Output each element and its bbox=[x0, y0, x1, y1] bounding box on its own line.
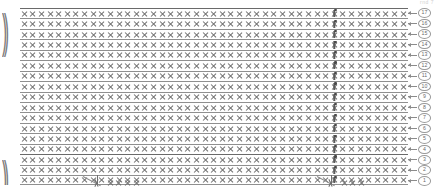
row-number-4[interactable]: 4 bbox=[408, 144, 431, 154]
single-crochet-x-icon bbox=[89, 19, 98, 28]
x-glyph bbox=[314, 115, 321, 122]
row-direction-arrow-icon bbox=[408, 65, 417, 66]
x-glyph bbox=[374, 125, 381, 132]
row-number-16[interactable]: 16 bbox=[408, 18, 431, 28]
dot-glyph bbox=[334, 20, 336, 22]
x-glyph bbox=[184, 31, 191, 38]
x-glyph bbox=[358, 179, 365, 186]
x-glyph bbox=[391, 21, 398, 28]
x-glyph bbox=[305, 104, 312, 111]
x-glyph bbox=[236, 42, 243, 49]
x-glyph bbox=[357, 73, 364, 80]
single-crochet-x-icon bbox=[364, 40, 373, 49]
stitch-row-cells bbox=[20, 134, 408, 143]
single-crochet-x-icon bbox=[356, 30, 365, 39]
x-glyph bbox=[184, 21, 191, 28]
row-number-10[interactable]: 10 bbox=[408, 81, 431, 91]
row-number-13[interactable]: 13 bbox=[408, 50, 431, 60]
x-glyph bbox=[339, 62, 346, 69]
x-glyph bbox=[296, 115, 303, 122]
single-crochet-x-icon bbox=[132, 40, 141, 49]
single-crochet-x-icon bbox=[390, 9, 399, 18]
x-glyph bbox=[72, 156, 79, 163]
x-glyph bbox=[236, 83, 243, 90]
row-number-8[interactable]: 8 bbox=[408, 102, 431, 112]
single-crochet-x-icon bbox=[296, 134, 305, 143]
x-glyph bbox=[184, 52, 191, 59]
x-glyph bbox=[150, 62, 157, 69]
dot-glyph bbox=[334, 145, 336, 147]
single-crochet-x-icon bbox=[106, 113, 115, 122]
x-glyph bbox=[391, 156, 398, 163]
single-crochet-x-icon bbox=[166, 40, 175, 49]
x-glyph bbox=[253, 31, 260, 38]
row-number-label: 11 bbox=[418, 71, 431, 81]
single-crochet-x-icon bbox=[115, 134, 124, 143]
single-crochet-x-icon bbox=[158, 113, 167, 122]
row-number-label: 5 bbox=[418, 134, 431, 144]
single-crochet-x-icon bbox=[390, 103, 399, 112]
single-crochet-x-icon bbox=[80, 30, 89, 39]
row-number-12[interactable]: 12 bbox=[408, 60, 431, 70]
x-glyph bbox=[219, 83, 226, 90]
single-crochet-x-icon bbox=[166, 82, 175, 91]
single-crochet-x-icon bbox=[201, 166, 210, 175]
single-crochet-x-icon bbox=[115, 82, 124, 91]
row-number-6[interactable]: 6 bbox=[408, 123, 431, 133]
single-crochet-x-icon bbox=[166, 155, 175, 164]
x-glyph bbox=[382, 73, 389, 80]
x-glyph bbox=[72, 104, 79, 111]
single-crochet-x-icon bbox=[339, 166, 348, 175]
single-crochet-x-icon bbox=[347, 134, 356, 143]
single-crochet-x-icon bbox=[252, 155, 261, 164]
x-glyph bbox=[98, 83, 105, 90]
single-crochet-x-icon bbox=[20, 61, 29, 70]
x-glyph bbox=[64, 156, 71, 163]
single-crochet-x-icon bbox=[37, 113, 46, 122]
single-crochet-x-icon bbox=[313, 124, 322, 133]
row-number-3[interactable]: 3 bbox=[408, 155, 431, 165]
row-number-11[interactable]: 11 bbox=[408, 71, 431, 81]
row-number-14[interactable]: 14 bbox=[408, 39, 431, 49]
single-crochet-x-icon bbox=[149, 93, 158, 102]
row-number-17[interactable]: 17 bbox=[408, 8, 431, 18]
single-crochet-x-icon bbox=[287, 134, 296, 143]
single-crochet-x-icon bbox=[192, 9, 201, 18]
single-crochet-x-icon bbox=[132, 145, 141, 154]
single-crochet-x-icon bbox=[313, 145, 322, 154]
x-glyph bbox=[176, 21, 183, 28]
x-glyph bbox=[107, 62, 114, 69]
stitch-row-cells bbox=[20, 9, 408, 18]
x-glyph bbox=[296, 83, 303, 90]
single-crochet-x-icon bbox=[46, 82, 55, 91]
row-number-2[interactable]: 2 bbox=[408, 165, 431, 175]
single-crochet-x-icon bbox=[175, 19, 184, 28]
x-glyph bbox=[107, 21, 114, 28]
x-glyph bbox=[107, 104, 114, 111]
single-crochet-x-icon bbox=[80, 93, 89, 102]
row-number-label: 13 bbox=[418, 50, 431, 60]
single-crochet-x-icon bbox=[304, 51, 313, 60]
single-crochet-x-icon bbox=[373, 9, 382, 18]
x-glyph bbox=[167, 73, 174, 80]
x-glyph bbox=[365, 21, 372, 28]
x-glyph bbox=[64, 31, 71, 38]
x-glyph bbox=[98, 10, 105, 17]
single-crochet-x-icon bbox=[149, 124, 158, 133]
row-number-5[interactable]: 5 bbox=[408, 134, 431, 144]
row-number-7[interactable]: 7 bbox=[408, 113, 431, 123]
single-crochet-x-icon bbox=[382, 103, 391, 112]
row-number-9[interactable]: 9 bbox=[408, 92, 431, 102]
x-glyph bbox=[141, 125, 148, 132]
single-crochet-x-icon bbox=[373, 82, 382, 91]
row-number-15[interactable]: 15 bbox=[408, 29, 431, 39]
single-crochet-x-icon bbox=[261, 82, 270, 91]
single-crochet-x-icon bbox=[313, 82, 322, 91]
single-crochet-x-icon bbox=[20, 72, 29, 81]
x-glyph bbox=[348, 115, 355, 122]
single-crochet-x-icon bbox=[364, 30, 373, 39]
single-crochet-x-icon bbox=[270, 30, 279, 39]
stitch-row bbox=[20, 165, 408, 175]
x-glyph bbox=[305, 10, 312, 17]
x-glyph bbox=[279, 167, 286, 174]
